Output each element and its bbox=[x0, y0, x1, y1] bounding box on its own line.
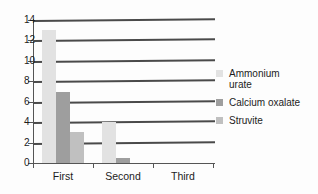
bar bbox=[116, 158, 130, 163]
bar bbox=[42, 30, 56, 163]
gridline bbox=[33, 18, 215, 22]
legend-label: Ammonium urate bbox=[229, 68, 280, 90]
gridline bbox=[33, 39, 215, 43]
legend-swatch-icon bbox=[216, 117, 223, 124]
legend-label: Struvite bbox=[229, 115, 263, 126]
gridline bbox=[33, 59, 215, 63]
legend-item: Calcium oxalate bbox=[216, 97, 318, 108]
legend-swatch-icon bbox=[216, 99, 223, 106]
x-axis-tick-label: First bbox=[33, 171, 93, 182]
chart-legend: Ammonium urateCalcium oxalateStruvite bbox=[216, 68, 318, 133]
bar bbox=[56, 92, 70, 164]
bar bbox=[70, 132, 84, 163]
legend-item: Ammonium urate bbox=[216, 68, 318, 90]
legend-item: Struvite bbox=[216, 115, 318, 126]
x-axis-tick bbox=[93, 163, 94, 168]
x-axis-tick-label: Second bbox=[93, 171, 153, 182]
bar bbox=[102, 122, 116, 163]
legend-label: Calcium oxalate bbox=[229, 97, 300, 108]
plot-area bbox=[33, 20, 213, 163]
gridline bbox=[33, 80, 215, 84]
x-axis-tick bbox=[33, 163, 34, 168]
legend-swatch-icon bbox=[216, 70, 223, 77]
x-axis-line bbox=[33, 163, 215, 164]
x-axis-tick bbox=[213, 163, 214, 168]
x-axis-tick bbox=[153, 163, 154, 168]
x-axis-tick-label: Third bbox=[153, 171, 213, 182]
bar-chart: 02468101214 FirstSecondThird Ammonium ur… bbox=[0, 0, 318, 194]
